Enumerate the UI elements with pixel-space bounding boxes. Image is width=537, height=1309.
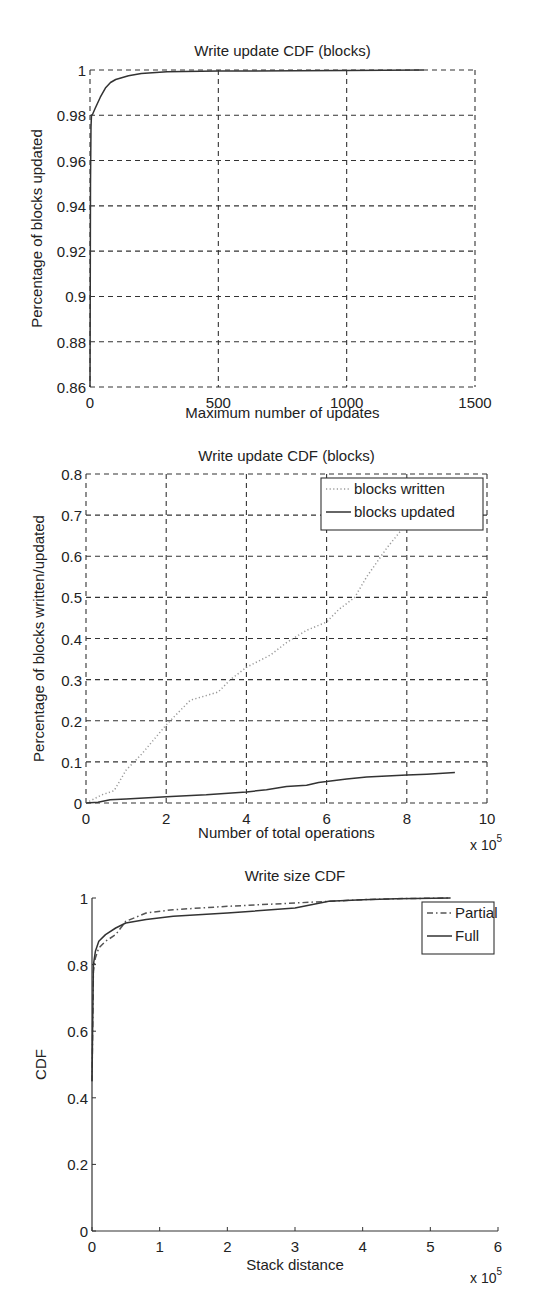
exponent: 5	[496, 833, 502, 844]
y-tick-label: 0.4	[61, 631, 82, 648]
x-tick-label: 0	[82, 810, 90, 827]
x-tick-label: 0	[88, 1238, 96, 1255]
y-tick-label: 0.7	[61, 507, 82, 524]
x-tick-label: 2	[162, 810, 170, 827]
x-tick-label: 3	[291, 1238, 299, 1255]
chart-title: Write update CDF (blocks)	[194, 42, 370, 59]
y-tick-label: 1	[80, 890, 88, 907]
y-tick-label: 0.8	[67, 957, 88, 974]
y-tick-label: 0.96	[57, 153, 86, 170]
exponent: 5	[496, 1266, 502, 1277]
y-tick-label: 0.92	[57, 243, 86, 260]
x-multiplier-label: x 105	[470, 1266, 502, 1286]
x-tick-label: 6	[494, 1238, 502, 1255]
legend-label: blocks updated	[354, 503, 455, 520]
chart-3: Write size CDF00.20.40.60.810123456Stack…	[32, 867, 502, 1286]
legend-label: blocks written	[354, 480, 445, 497]
x-tick-label: 1500	[458, 394, 491, 411]
y-tick-label: 0.6	[61, 548, 82, 565]
x-axis-label: Maximum number of updates	[185, 404, 379, 421]
y-axis-label: Percentage of blocks written/updated	[30, 515, 47, 762]
y-tick-label: 0.9	[65, 288, 86, 305]
x-tick-label: 4	[358, 1238, 366, 1255]
y-tick-label: 0	[80, 1223, 88, 1240]
figure-canvas: Write update CDF (blocks)0.860.880.90.92…	[0, 0, 537, 1309]
y-axis-label: CDF	[32, 1049, 49, 1080]
y-tick-label: 1	[78, 62, 86, 79]
x-tick-label: 8	[403, 810, 411, 827]
x-axis-label: Number of total operations	[198, 824, 375, 841]
y-axis-label: Percentage of blocks updated	[28, 129, 45, 327]
chart-1: Write update CDF (blocks)0.860.880.90.92…	[28, 42, 492, 421]
y-tick-label: 0.5	[61, 589, 82, 606]
y-tick-label: 0.86	[57, 379, 86, 396]
series-line-partial	[92, 898, 451, 1081]
legend: blocks writtenblocks updated	[321, 478, 483, 530]
y-tick-label: 0.8	[61, 466, 82, 483]
chart-2: Write update CDF (blocks)00.10.20.30.40.…	[30, 447, 502, 853]
y-tick-label: 0.3	[61, 672, 82, 689]
chart-title: Write update CDF (blocks)	[198, 447, 374, 464]
x-tick-label: 5	[426, 1238, 434, 1255]
legend-label: Partial	[455, 904, 498, 921]
legend: PartialFull	[422, 902, 498, 954]
x-tick-label: 2	[223, 1238, 231, 1255]
x-tick-label: 1	[155, 1238, 163, 1255]
y-tick-label: 0.98	[57, 107, 86, 124]
x-tick-label: 10	[479, 810, 496, 827]
x-axis-label: Stack distance	[246, 1256, 344, 1273]
chart-title: Write size CDF	[245, 867, 346, 884]
y-tick-label: 0	[74, 795, 82, 812]
y-tick-label: 0.88	[57, 334, 86, 351]
y-tick-label: 0.2	[67, 1156, 88, 1173]
series-line-full	[92, 898, 451, 1081]
y-tick-label: 0.2	[61, 713, 82, 730]
series-line-blocks-updated	[86, 773, 455, 803]
series-line-blocks-updated-cdf	[90, 70, 424, 387]
legend-label: Full	[455, 927, 479, 944]
y-tick-label: 0.94	[57, 198, 86, 215]
y-tick-label: 0.1	[61, 754, 82, 771]
y-tick-label: 0.6	[67, 1023, 88, 1040]
x-multiplier-label: x 105	[470, 833, 502, 853]
x-tick-label: 0	[86, 394, 94, 411]
y-tick-label: 0.4	[67, 1090, 88, 1107]
